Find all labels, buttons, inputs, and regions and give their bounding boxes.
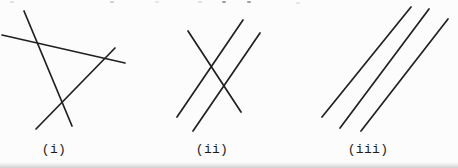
scan-bottom-shadow <box>0 162 458 168</box>
figure-i-line-3 <box>36 48 115 129</box>
figure-iii-line-3 <box>361 19 448 131</box>
figure-iii-line-2 <box>340 9 429 128</box>
scan-speck <box>198 1 202 3</box>
scan-speck <box>155 1 159 3</box>
line-arrangements-figure: (i) (ii) (iii) <box>0 0 458 168</box>
scan-speck <box>110 1 114 3</box>
figure-ii-label: (ii) <box>196 142 228 157</box>
figure-iii-label: (iii) <box>348 142 389 157</box>
scan-speck <box>222 1 226 3</box>
figure-ii-line-3 <box>193 33 260 131</box>
scan-speck <box>296 2 300 4</box>
scan-speck <box>10 1 14 3</box>
figure-i-label: (i) <box>42 142 66 157</box>
figure-ii-line-2 <box>177 20 243 117</box>
figure-i-line-1 <box>2 35 125 63</box>
figure-iii-line-1 <box>322 7 411 117</box>
scan-speck <box>247 1 251 3</box>
lines-svg <box>0 0 458 168</box>
figure-i-line-2 <box>24 11 72 126</box>
